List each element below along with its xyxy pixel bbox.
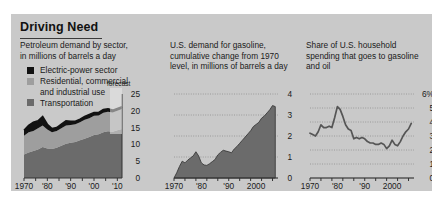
- legend-swatch-electric-power: [27, 67, 34, 74]
- legend-item-electric-power: Electric-power sector: [27, 65, 157, 75]
- y-tick-label: 25: [131, 89, 140, 99]
- y-tick-label: 20: [131, 106, 140, 116]
- x-tick-label: 1970: [165, 181, 183, 191]
- chart-petroleum-demand: 0510152025 1970'80'90'00'10: [24, 94, 122, 178]
- y-tick-label: 3: [429, 131, 432, 141]
- chart3-svg: [310, 94, 414, 178]
- forecast-annotation: forecast: [107, 80, 130, 87]
- x-tick-label: '90: [223, 181, 234, 191]
- y-tick-label: 3: [287, 110, 292, 120]
- y-tick-label: 6%: [422, 89, 432, 99]
- x-tick-label: '90: [65, 181, 76, 191]
- panel1-subtitle: Petroleum demand by sector, in millions …: [20, 40, 152, 61]
- forecast-shading: [110, 88, 122, 134]
- x-tick-label: '00: [89, 181, 100, 191]
- panel3-subtitle: Share of U.S. household spending that go…: [306, 40, 431, 72]
- panel-household-spending-share: Share of U.S. household spending that go…: [297, 14, 432, 191]
- chart1-x-axis: 1970'80'90'00'10: [24, 181, 122, 191]
- y-tick-label: 1: [287, 152, 292, 162]
- y-tick-label: 5: [429, 103, 432, 113]
- y-tick-label: 15: [131, 123, 140, 133]
- x-tick-label: 2000: [383, 181, 401, 191]
- chart1-y-axis: 0510152025: [124, 94, 140, 178]
- chart2-svg: [174, 94, 278, 178]
- chart-gasoline-cumulative: 01234 1970'80'902000: [174, 94, 278, 178]
- y-tick-label: 4: [429, 117, 432, 127]
- y-tick-label: 0: [287, 173, 292, 183]
- panel-petroleum-demand-by-sector: Petroleum demand by sector, in millions …: [11, 14, 161, 191]
- chart3-x-axis: 1970'80'902000: [310, 181, 414, 191]
- y-tick-label: 5: [135, 156, 140, 166]
- chart1-svg: [24, 94, 122, 178]
- y-tick-label: 10: [131, 139, 140, 149]
- infographic-figure: Driving Need Petroleum demand by sector,…: [11, 14, 432, 191]
- x-tick-label: '10: [112, 181, 123, 191]
- y-tick-label: 0: [429, 173, 432, 183]
- x-tick-label: '80: [196, 181, 207, 191]
- x-tick-label: '90: [359, 181, 370, 191]
- chart3-y-axis: 0123456%: [416, 94, 432, 178]
- chart-household-spending: 0123456% 1970'80'902000: [310, 94, 414, 178]
- x-tick-label: 1970: [15, 181, 33, 191]
- panel2-subtitle: U.S. demand for gasoline, cumulative cha…: [170, 40, 295, 72]
- y-tick-label: 1: [429, 159, 432, 169]
- x-tick-label: '80: [332, 181, 343, 191]
- chart2-y-axis: 01234: [280, 94, 292, 178]
- legend-label-electric-power: Electric-power sector: [40, 65, 157, 75]
- y-tick-label: 2: [287, 131, 292, 141]
- y-tick-label: 2: [429, 145, 432, 155]
- x-tick-label: 2000: [247, 181, 265, 191]
- x-tick-label: '80: [42, 181, 53, 191]
- panel-gasoline-cumulative-change: U.S. demand for gasoline, cumulative cha…: [161, 14, 297, 191]
- chart2-x-axis: 1970'80'902000: [174, 181, 278, 191]
- y-tick-label: 0: [135, 173, 140, 183]
- x-tick-label: 1970: [301, 181, 319, 191]
- legend-swatch-residential: [27, 78, 34, 85]
- y-tick-label: 4: [287, 89, 292, 99]
